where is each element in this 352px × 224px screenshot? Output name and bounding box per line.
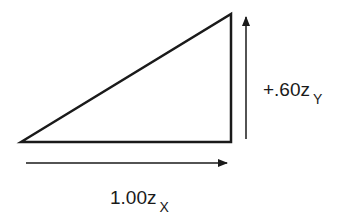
vertical-coefficient: +.60	[263, 79, 301, 100]
horizontal-variable: z	[147, 187, 157, 208]
vertical-vector-label: +.60zY	[263, 80, 322, 99]
diagram-canvas	[0, 0, 352, 224]
vertical-variable: z	[301, 79, 311, 100]
right-triangle	[21, 14, 231, 142]
vertical-subscript: Y	[313, 91, 322, 107]
horizontal-coefficient: 1.00	[110, 187, 147, 208]
horizontal-vector-label: 1.00zX	[110, 188, 169, 207]
horizontal-subscript: X	[159, 199, 168, 215]
